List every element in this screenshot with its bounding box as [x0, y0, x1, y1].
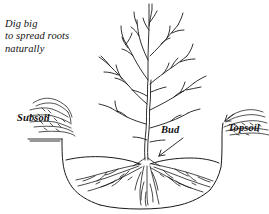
- subsoil-label: Subsoil: [17, 112, 50, 124]
- bare-tree-icon: [99, 4, 206, 160]
- planting-diagram: Dig big to spread roots naturally Subsoi…: [0, 0, 269, 214]
- topsoil-label: Topsoil: [228, 122, 260, 134]
- instruction-note: Dig big to spread roots naturally: [5, 18, 69, 55]
- ground-line-left: [28, 139, 62, 141]
- root-system-icon: [76, 158, 213, 206]
- bud-pointer-icon: [159, 138, 183, 156]
- bud-label: Bud: [161, 124, 179, 136]
- planting-hole-icon: [62, 123, 223, 209]
